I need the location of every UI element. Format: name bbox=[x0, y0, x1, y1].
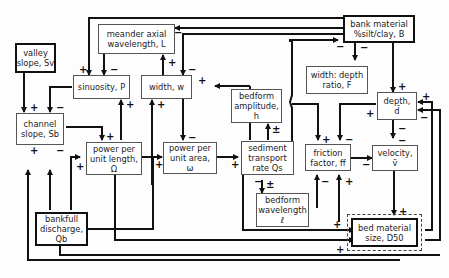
sign-minus: − bbox=[336, 42, 344, 52]
node-label: d̄ bbox=[384, 106, 411, 116]
node-bedform-wavelength: bedformwavelengthℓ bbox=[256, 193, 309, 227]
sign-plus: + bbox=[155, 160, 163, 170]
sign-minus: − bbox=[321, 177, 329, 187]
sign-minus: − bbox=[56, 103, 64, 113]
node-power-per-unit-area: power perunit area,ω bbox=[163, 142, 217, 174]
node-label: slope, Sb bbox=[21, 129, 59, 139]
sign-minus: − bbox=[188, 133, 196, 143]
node-label: amplitude, bbox=[234, 101, 279, 111]
node-sediment-transport-rate: sedimenttransportrate Qs bbox=[241, 141, 294, 175]
sign-plus: + bbox=[79, 65, 87, 75]
sign-plus: + bbox=[231, 160, 239, 170]
sign-plus: + bbox=[30, 146, 38, 156]
node-label: width, w bbox=[149, 82, 184, 92]
node-label: bedform bbox=[234, 91, 279, 101]
node-label: ℓ bbox=[258, 215, 306, 225]
node-power-per-unit-length: power perunit length,Ω bbox=[86, 142, 142, 175]
node-label: unit area, bbox=[169, 153, 211, 163]
sign-minus: − bbox=[360, 43, 368, 53]
node-label: sinuosity, P bbox=[78, 82, 125, 92]
node-bed-material-size: bed materialsize, D50 bbox=[351, 218, 418, 247]
node-label: Ω bbox=[90, 164, 138, 174]
node-meander-wavelength: meander axialwavelength, L bbox=[98, 24, 175, 54]
sign-plus: + bbox=[157, 100, 165, 110]
sign-plus: + bbox=[366, 109, 374, 119]
sign-plus: + bbox=[333, 220, 341, 230]
sign-plus: + bbox=[30, 103, 38, 113]
node-label: valley bbox=[17, 48, 55, 58]
sign-plus: + bbox=[322, 135, 330, 145]
fluvial-system-diagram: valleyslope, Sv meander axialwavelength,… bbox=[0, 0, 449, 278]
node-label: ω bbox=[169, 163, 211, 173]
sign-minus: − bbox=[254, 177, 262, 187]
node-depth: depth,d̄ bbox=[377, 92, 417, 120]
node-label: Qb bbox=[40, 234, 83, 244]
node-label: depth, bbox=[384, 96, 411, 106]
node-label: power per bbox=[90, 144, 138, 154]
node-label: rate Qs bbox=[248, 163, 287, 173]
sign-plus: + bbox=[198, 76, 206, 86]
sign-minus: − bbox=[362, 160, 370, 170]
sign-plus: + bbox=[76, 162, 84, 172]
node-label: bankfull bbox=[40, 214, 83, 224]
node-label: slope, Sv bbox=[17, 58, 55, 68]
node-label: h bbox=[234, 111, 279, 121]
node-label: unit length, bbox=[90, 154, 138, 164]
node-label: factor, ff bbox=[310, 158, 345, 168]
sign-minus: − bbox=[174, 28, 182, 38]
sign-plus-minus: ± bbox=[272, 125, 280, 135]
node-label: bank material bbox=[350, 19, 408, 29]
sign-plus: + bbox=[336, 245, 344, 255]
sign-plus: + bbox=[168, 58, 176, 68]
sign-plus: + bbox=[106, 132, 114, 142]
node-velocity: velocity,v̄ bbox=[372, 145, 418, 171]
node-label: power per bbox=[169, 143, 211, 153]
node-width-depth-ratio: width: depthratio, F bbox=[306, 66, 368, 94]
node-label: %silt/clay, B bbox=[350, 29, 408, 39]
node-label: velocity, bbox=[377, 148, 412, 158]
sign-minus: − bbox=[56, 146, 64, 156]
sign-plus-minus: ± bbox=[266, 180, 274, 190]
sign-plus: + bbox=[126, 100, 134, 110]
node-channel-slope: channelslope, Sb bbox=[16, 113, 64, 145]
node-sinuosity: sinuosity, P bbox=[73, 75, 130, 99]
sign-plus: + bbox=[345, 177, 353, 187]
node-label: width: depth bbox=[311, 70, 363, 80]
sign-minus: − bbox=[345, 135, 353, 145]
sign-plus: + bbox=[399, 207, 407, 217]
node-label: sediment bbox=[248, 143, 287, 153]
node-bedform-amplitude: bedformamplitude,h bbox=[231, 89, 282, 123]
node-bankfull-discharge: bankfulldischarge,Qb bbox=[35, 212, 88, 246]
sign-minus: − bbox=[188, 65, 196, 75]
node-width: width, w bbox=[141, 75, 192, 99]
node-label: channel bbox=[21, 119, 59, 129]
node-label: wavelength, L bbox=[107, 39, 167, 49]
node-label: wavelength bbox=[258, 205, 306, 215]
node-label: friction bbox=[310, 148, 345, 158]
node-label: meander axial bbox=[107, 29, 167, 39]
node-label: v̄ bbox=[377, 158, 412, 168]
sign-minus: − bbox=[420, 113, 428, 123]
sign-minus: − bbox=[398, 136, 406, 146]
node-label: discharge, bbox=[40, 224, 83, 234]
node-label: ratio, F bbox=[311, 80, 363, 90]
node-label: size, D50 bbox=[358, 233, 411, 243]
node-label: bed material bbox=[358, 223, 411, 233]
sign-minus: − bbox=[398, 124, 406, 134]
node-bank-material: bank material%silt/clay, B bbox=[343, 15, 415, 43]
sign-plus: + bbox=[422, 92, 430, 102]
sign-minus: − bbox=[110, 65, 118, 75]
node-label: bedform bbox=[258, 195, 306, 205]
node-valley-slope: valleyslope, Sv bbox=[15, 43, 56, 73]
node-friction-factor: frictionfactor, ff bbox=[305, 144, 351, 171]
sign-plus: + bbox=[398, 82, 406, 92]
node-label: transport bbox=[248, 153, 287, 163]
